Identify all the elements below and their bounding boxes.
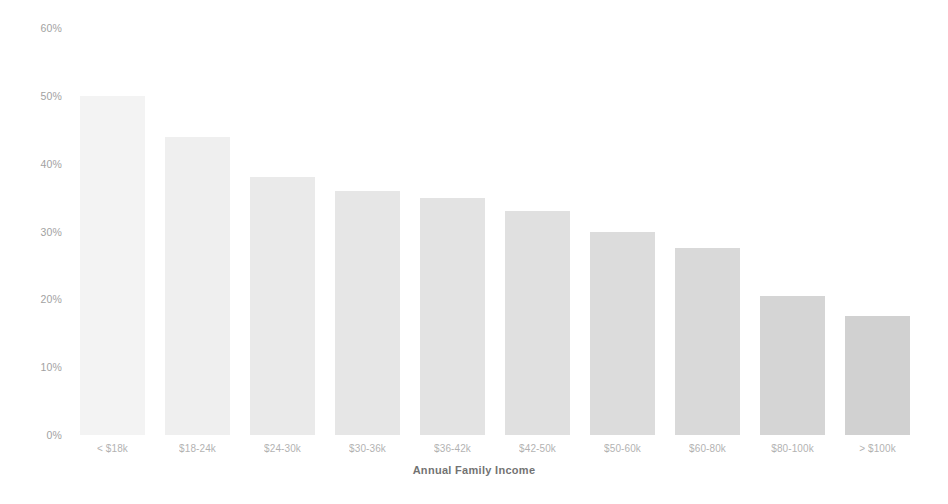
- x-axis-tick-label: $30-36k: [325, 443, 410, 454]
- y-axis-tick-label: 10%: [40, 361, 62, 373]
- bars-layer: [70, 28, 920, 435]
- bar-rect: [675, 248, 741, 435]
- bar: [335, 191, 401, 435]
- bar: [80, 96, 146, 435]
- bar: [250, 177, 316, 435]
- y-axis-tick-label: 0%: [46, 429, 62, 441]
- bar: [845, 316, 911, 435]
- bar-rect: [420, 198, 486, 435]
- bar: [505, 211, 571, 435]
- y-axis-tick-label: 40%: [40, 158, 62, 170]
- y-axis-tick-label: 60%: [40, 22, 62, 34]
- plot-area: [70, 28, 920, 435]
- bar-rect: [845, 316, 911, 435]
- bar-rect: [760, 296, 826, 435]
- x-axis-tick-label: $50-60k: [580, 443, 665, 454]
- bar: [760, 296, 826, 435]
- y-axis-tick-label: 50%: [40, 90, 62, 102]
- x-axis-tick-label: > $100k: [835, 443, 920, 454]
- x-axis-tick-label: $18-24k: [155, 443, 240, 454]
- y-axis: 60%50%40%30%20%10%0%: [0, 0, 70, 504]
- bar-rect: [505, 211, 571, 435]
- bar: [165, 137, 231, 435]
- y-axis-tick-label: 30%: [40, 226, 62, 238]
- x-axis-tick-label: $42-50k: [495, 443, 580, 454]
- bar-chart: 60%50%40%30%20%10%0% < $18k$18-24k$24-30…: [0, 0, 948, 504]
- x-axis-title: Annual Family Income: [0, 464, 948, 476]
- x-axis-tick-label: $36-42k: [410, 443, 495, 454]
- x-axis-tick-label: $60-80k: [665, 443, 750, 454]
- bar-rect: [250, 177, 316, 435]
- bar-rect: [80, 96, 146, 435]
- bar: [420, 198, 486, 435]
- bar: [590, 232, 656, 436]
- bar-rect: [590, 232, 656, 436]
- y-axis-tick-label: 20%: [40, 293, 62, 305]
- x-axis-tick-label: $80-100k: [750, 443, 835, 454]
- bar-rect: [335, 191, 401, 435]
- bar: [675, 248, 741, 435]
- x-axis-tick-label: $24-30k: [240, 443, 325, 454]
- x-axis-tick-label: < $18k: [70, 443, 155, 454]
- bar-rect: [165, 137, 231, 435]
